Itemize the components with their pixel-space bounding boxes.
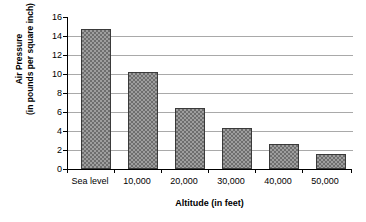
- bar-30000: [222, 128, 252, 169]
- y-axis-title-line2: (in pounds per square inch): [25, 0, 36, 139]
- x-axis-line: [67, 169, 352, 170]
- x-tick-mark-3: [208, 169, 209, 173]
- y-tick-label-4: 4: [40, 127, 62, 136]
- bar-50000: [316, 154, 346, 169]
- x-tick-label-50000: 50,000: [297, 176, 353, 186]
- bar-20000: [175, 108, 205, 169]
- y-tick-label-10: 10: [40, 70, 62, 79]
- x-tick-mark-1: [114, 169, 115, 173]
- y-tick-label-0: 0: [40, 165, 62, 174]
- x-axis-title: Altitude (in feet): [67, 198, 352, 208]
- bar-40000: [269, 144, 299, 169]
- x-tick-mark-6: [351, 169, 352, 173]
- y-tick-label-12: 12: [40, 51, 62, 60]
- y-tick-label-16: 16: [40, 13, 62, 22]
- y-tick-label-8: 8: [40, 89, 62, 98]
- y-axis-title-line1: Air Pressure: [14, 0, 25, 139]
- x-tick-mark-0: [67, 169, 68, 173]
- bar-sea-level: [81, 29, 111, 169]
- y-tick-label-2: 2: [40, 146, 62, 155]
- y-tick-label-14: 14: [40, 32, 62, 41]
- x-tick-mark-4: [255, 169, 256, 173]
- y-axis-title: Air Pressure (in pounds per square inch): [14, 0, 36, 139]
- x-tick-mark-2: [161, 169, 162, 173]
- y-tick-label-6: 6: [40, 108, 62, 117]
- bar-10000: [128, 72, 158, 169]
- x-tick-mark-5: [302, 169, 303, 173]
- bar-series: [67, 17, 352, 169]
- bar-chart: Air Pressure (in pounds per square inch)…: [0, 0, 366, 222]
